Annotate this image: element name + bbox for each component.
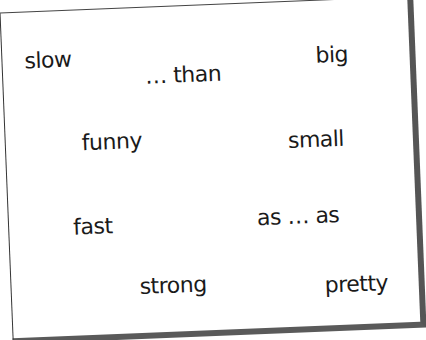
word-funny: funny [81,128,142,155]
word-pretty: pretty [324,270,388,298]
word-as-as: as … as [256,202,339,230]
word-big: big [315,41,349,67]
word-card: slow … than big funny small fast as … as… [0,0,426,340]
word-small: small [287,126,344,153]
word-strong: strong [139,271,207,299]
word-card-image: slow … than big funny small fast as … as… [0,0,426,340]
word-fast: fast [73,213,113,240]
word-than: … than [145,61,222,89]
word-slow: slow [24,47,72,74]
